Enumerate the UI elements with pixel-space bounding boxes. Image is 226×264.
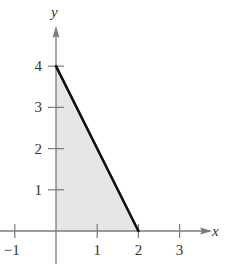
y-tick-label: 2	[35, 141, 43, 157]
y-tick-label: 1	[35, 182, 43, 198]
y-tick-label: 4	[35, 58, 43, 74]
x-tick-label: 1	[93, 242, 101, 258]
x-tick-label: 3	[176, 242, 184, 258]
y-axis-label: y	[49, 4, 58, 20]
chart: −11231234 x y	[0, 0, 226, 264]
x-tick-label: −1	[4, 242, 20, 258]
x-tick-label: 2	[135, 242, 143, 258]
y-tick-label: 3	[35, 99, 43, 115]
x-axis-label: x	[211, 223, 219, 239]
